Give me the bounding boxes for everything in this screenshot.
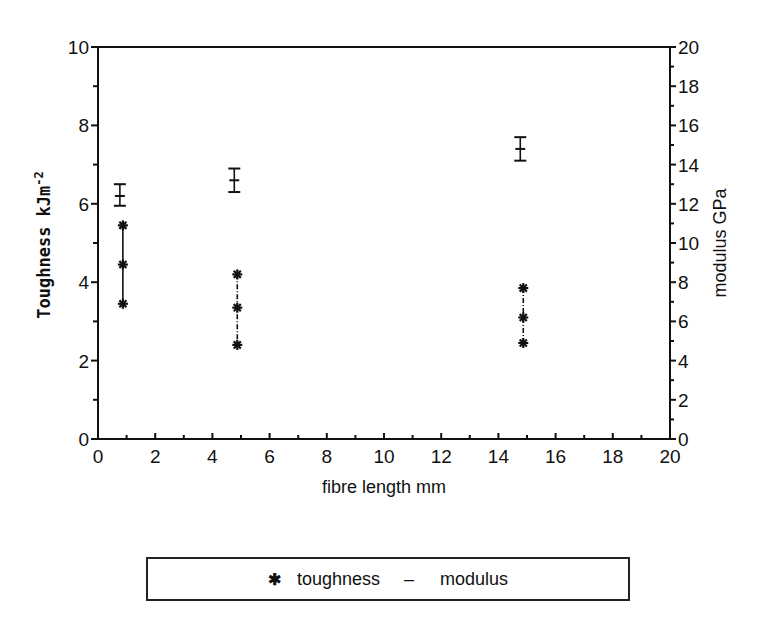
- y-tick-label-right: 0: [678, 429, 689, 450]
- y-tick-label-left: 10: [68, 37, 89, 58]
- y-tick-label-right: 6: [678, 311, 689, 332]
- asterisk-marker-icon: [118, 299, 128, 309]
- data-series: [114, 137, 528, 350]
- asterisk-marker-icon: [232, 269, 242, 279]
- x-tick-label: 10: [373, 446, 394, 467]
- dash-marker-icon: –: [404, 569, 414, 590]
- y-tick-label-right: 18: [678, 76, 699, 97]
- asterisk-marker-icon: [232, 303, 242, 313]
- y-tick-label-right: 12: [678, 194, 699, 215]
- legend-item-toughness: ✱ toughness: [268, 569, 380, 590]
- x-tick-label: 16: [545, 446, 566, 467]
- y-tick-label-left: 4: [78, 272, 89, 293]
- x-tick-label: 14: [488, 446, 510, 467]
- y-tick-label-right: 14: [678, 155, 700, 176]
- legend-label-modulus: modulus: [440, 569, 508, 590]
- y-tick-label-right: 8: [678, 272, 689, 293]
- y-axis-title-left: Toughness kJm-2: [32, 171, 54, 319]
- legend-label-toughness: toughness: [297, 569, 380, 590]
- y-tick-label-left: 6: [78, 194, 89, 215]
- plot-frame: [98, 47, 670, 439]
- y-tick-label-left: 8: [78, 115, 89, 136]
- asterisk-marker-icon: [518, 283, 528, 293]
- y-axis-title-text: Toughness kJm: [34, 186, 54, 319]
- x-tick-label: 18: [602, 446, 623, 467]
- asterisk-marker-icon: [118, 260, 128, 270]
- chart-plot: 0246810121416182002468100246810121416182…: [0, 0, 758, 641]
- asterisk-marker-icon: [518, 312, 528, 322]
- y-tick-label-right: 10: [678, 233, 699, 254]
- x-tick-label: 8: [322, 446, 333, 467]
- x-tick-label: 12: [431, 446, 452, 467]
- x-tick-label: 0: [93, 446, 104, 467]
- legend-item-modulus: – modulus: [380, 569, 508, 590]
- plot-border: [98, 47, 670, 439]
- y-tick-label-left: 2: [78, 351, 89, 372]
- y-tick-label-left: 0: [78, 429, 89, 450]
- x-tick-label: 2: [150, 446, 161, 467]
- y-tick-label-right: 20: [678, 37, 699, 58]
- axis-ticks: 0246810121416182002468100246810121416182…: [68, 37, 700, 467]
- asterisk-marker-icon: [118, 220, 128, 230]
- asterisk-marker-icon: ✱: [268, 570, 281, 589]
- y-tick-label-right: 4: [678, 351, 689, 372]
- y-axis-title-exponent: -2: [32, 171, 46, 185]
- asterisk-marker-icon: [518, 338, 528, 348]
- y-tick-label-right: 2: [678, 390, 689, 411]
- legend: ✱ toughness – modulus: [146, 557, 630, 601]
- x-tick-label: 4: [207, 446, 218, 467]
- y-axis-title-right: modulus GPa: [710, 187, 730, 297]
- asterisk-marker-icon: [232, 340, 242, 350]
- y-tick-label-right: 16: [678, 115, 699, 136]
- x-tick-label: 6: [264, 446, 275, 467]
- x-axis-title: fibre length mm: [322, 477, 446, 497]
